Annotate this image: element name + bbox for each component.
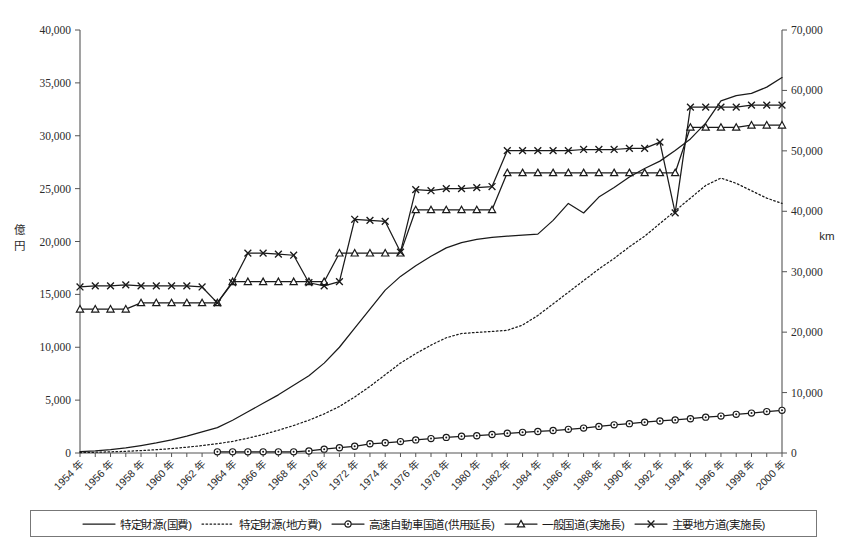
x-tick-label: 1984 年 [509, 458, 543, 492]
marker-circle-dot [369, 443, 371, 445]
y-tick-label-left: 35,000 [39, 77, 71, 90]
y-tick-label-right: 50,000 [791, 145, 823, 158]
x-tick-label: 1954 年 [51, 458, 85, 492]
x-tick-label: 1970 年 [295, 458, 329, 492]
marker-circle-dot [216, 451, 218, 453]
marker-circle-dot [384, 442, 386, 444]
y-tick-label-left: 40,000 [39, 24, 71, 37]
marker-circle-dot [735, 413, 737, 415]
y-tick-label-right: 70,000 [791, 24, 823, 37]
marker-circle-dot [347, 523, 349, 525]
series-path [80, 78, 782, 452]
series-path [80, 125, 782, 309]
series-4 [77, 102, 786, 307]
marker-circle-dot [659, 420, 661, 422]
x-tick-label: 1976 年 [387, 458, 421, 492]
legend-swatch [201, 518, 235, 530]
x-tick-label: 1990 年 [601, 458, 635, 492]
marker-circle-dot [766, 411, 768, 413]
chart-legend: 特定財源(国費)特定財源(地方費)高速自動車国道(供用延長)一般国道(実施長)主… [30, 510, 817, 537]
y-tick-label-left: 0 [65, 447, 71, 459]
x-tick-label: 1978 年 [418, 458, 452, 492]
legend-label: 主要地方道(実施長) [672, 516, 766, 532]
marker-circle-dot [644, 421, 646, 423]
marker-circle-dot [338, 447, 340, 449]
y-tick-label-left: 30,000 [39, 130, 71, 143]
marker-circle-dot [399, 441, 401, 443]
marker-circle-dot [750, 412, 752, 414]
marker-circle-dot [445, 436, 447, 438]
y-axis-unit-left: 円 [14, 240, 25, 252]
x-tick-label: 1994 年 [662, 458, 696, 492]
marker-circle-dot [232, 451, 234, 453]
legend-item: 主要地方道(実施長) [634, 516, 766, 532]
x-tick-label: 1996 年 [692, 458, 726, 492]
marker-circle-dot [476, 435, 478, 437]
legend-item: 高速自動車国道(供用延長) [331, 516, 495, 532]
marker-circle-dot [247, 451, 249, 453]
y-tick-label-left: 20,000 [39, 236, 71, 249]
y-tick-label-right: 60,000 [791, 84, 823, 97]
chart-plot: 05,00010,00015,00020,00025,00030,00035,0… [0, 0, 847, 505]
marker-circle-dot [262, 451, 264, 453]
marker-circle-dot [293, 451, 295, 453]
marker-circle-dot [674, 419, 676, 421]
y-axis-unit-right: km [819, 230, 834, 242]
x-tick-label: 1958 年 [112, 458, 146, 492]
legend-label: 一般国道(実施長) [542, 516, 625, 532]
y-tick-label-right: 20,000 [791, 326, 823, 339]
series-path [80, 178, 782, 453]
legend-swatch [331, 518, 365, 530]
x-tick-label: 2000 年 [753, 458, 787, 492]
marker-circle-dot [522, 431, 524, 433]
marker-circle-dot [613, 424, 615, 426]
marker-circle-dot [598, 425, 600, 427]
y-tick-label-left: 15,000 [39, 288, 71, 301]
legend-label: 特定財源(地方費) [239, 516, 322, 532]
series-path [80, 105, 782, 303]
marker-circle-dot [705, 416, 707, 418]
legend-item: 一般国道(実施長) [504, 516, 625, 532]
series-1 [80, 178, 782, 453]
x-tick-label: 1972 年 [326, 458, 360, 492]
marker-circle-dot [308, 450, 310, 452]
x-tick-label: 1998 年 [723, 458, 757, 492]
legend-swatch [82, 518, 116, 530]
x-tick-label: 1956 年 [82, 458, 116, 492]
y-tick-label-left: 10,000 [39, 341, 71, 354]
x-tick-label: 1986 年 [540, 458, 574, 492]
x-tick-label: 1966 年 [234, 458, 268, 492]
series-3 [76, 122, 785, 312]
marker-circle-dot [415, 439, 417, 441]
x-tick-label: 1974 年 [356, 458, 390, 492]
x-tick-label: 1988 年 [570, 458, 604, 492]
marker-circle-dot [323, 448, 325, 450]
marker-circle-dot [461, 435, 463, 437]
legend-item: 特定財源(地方費) [201, 516, 322, 532]
y-tick-label-right: 40,000 [791, 205, 823, 218]
x-tick-label: 1980 年 [448, 458, 482, 492]
legend-swatch [504, 518, 538, 530]
x-tick-label: 1964 年 [204, 458, 238, 492]
y-tick-label-left: 5,000 [45, 394, 71, 407]
series-0 [80, 78, 782, 452]
y-tick-label-left: 25,000 [39, 183, 71, 196]
x-tick-label: 1968 年 [265, 458, 299, 492]
y-tick-label-right: 30,000 [791, 266, 823, 279]
marker-circle-dot [506, 432, 508, 434]
x-tick-label: 1962 年 [173, 458, 207, 492]
chart-container: 05,00010,00015,00020,00025,00030,00035,0… [0, 0, 847, 540]
legend-label: 特定財源(国費) [120, 516, 192, 532]
y-tick-label-right: 10,000 [791, 387, 823, 400]
legend-label: 高速自動車国道(供用延長) [369, 516, 495, 532]
x-tick-label: 1960 年 [143, 458, 177, 492]
series-2 [214, 407, 785, 455]
marker-circle-dot [430, 438, 432, 440]
x-tick-label: 1992 年 [631, 458, 665, 492]
marker-circle-dot [537, 430, 539, 432]
legend-item: 特定財源(国費) [82, 516, 192, 532]
marker-circle-dot [354, 445, 356, 447]
series-path [217, 410, 782, 452]
marker-circle-dot [781, 409, 783, 411]
marker-circle-dot [583, 427, 585, 429]
